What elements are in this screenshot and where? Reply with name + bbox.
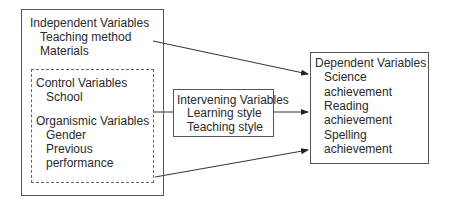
dependent-item: achievement [324, 85, 392, 99]
dependent-item: Science [324, 70, 367, 84]
intervening-item: Learning style [187, 106, 262, 120]
dependent-item: Spelling [324, 128, 367, 142]
organismic-item: Gender [46, 128, 86, 142]
control-variables-title: Control Variables [36, 76, 127, 90]
dependent-variables-title: Dependent Variables [315, 56, 426, 70]
intervening-variables-title: Intervening Variables [177, 93, 289, 107]
control-item: School [46, 90, 83, 104]
independent-variables-title: Independent Variables [30, 16, 149, 30]
dependent-item: achievement [324, 142, 392, 156]
organismic-item: Previous [46, 142, 93, 156]
arrow-independent-to-dependent [153, 41, 308, 74]
organismic-variables-title: Organismic Variables [36, 114, 149, 128]
dependent-item: Reading [324, 99, 369, 113]
organismic-item: performance [46, 156, 113, 170]
dependent-item: achievement [324, 113, 392, 127]
independent-item: Materials [40, 44, 89, 58]
arrow-organismic-to-dependent [155, 150, 308, 177]
intervening-item: Teaching style [187, 120, 263, 134]
independent-item: Teaching method [40, 30, 131, 44]
